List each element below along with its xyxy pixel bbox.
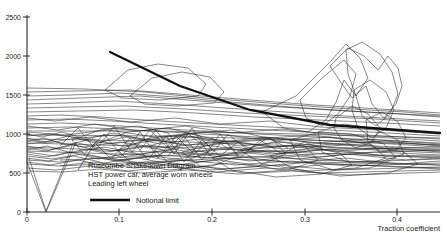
legend-label-notional-limit: Notional limit: [136, 196, 180, 205]
y-tick-label: 500: [9, 170, 21, 177]
x-axis-title: Traction coefficient: [377, 224, 440, 233]
chart-figure: 2500 2000 1500 1000 500 0 0 0.1 0.2 0.3 …: [0, 0, 447, 233]
y-tick-label: 2500: [5, 14, 21, 21]
y-tick-label: 0: [17, 209, 21, 216]
shakedown-diagram-svg: 2500 2000 1500 1000 500 0 0 0.1 0.2 0.3 …: [0, 0, 447, 233]
x-tick-label: 0.2: [207, 216, 217, 223]
x-tick-label: 0: [25, 216, 29, 223]
annotation-line-vehicle: HST power car, average worn wheels: [88, 170, 213, 179]
x-tick-label: 0.3: [300, 216, 310, 223]
x-tick-label: 0.1: [114, 216, 124, 223]
annotation-line-wheel: Leading left wheel: [88, 179, 149, 188]
y-tick-label: 2000: [5, 53, 21, 60]
y-tick-label: 1500: [5, 92, 21, 99]
x-tick-label: 0.4: [392, 216, 402, 223]
annotation-line-title: Ruscombe Shakedown Diagram: [88, 161, 196, 170]
y-tick-label: 1000: [5, 131, 21, 138]
figure-background: [0, 0, 447, 233]
